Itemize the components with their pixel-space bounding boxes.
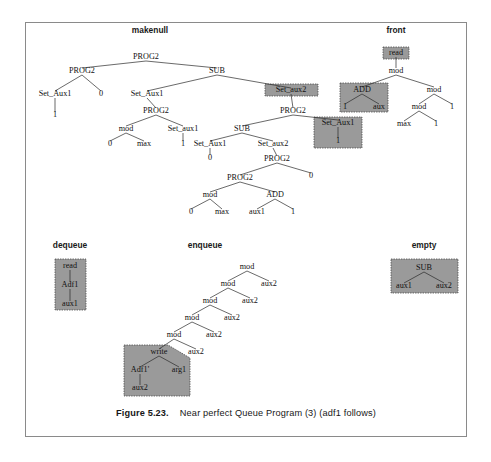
tree-node-eq-aux2: aux2 — [132, 383, 148, 392]
tree-node-mn-l-1: Set_Aux1 — [39, 89, 72, 98]
tree-node-eq-mod5-aux2: aux2 — [188, 347, 204, 356]
tree-node-eq-mod1-aux2: aux2 — [261, 279, 277, 288]
tree-node-fr-add-1: 1 — [343, 102, 347, 111]
tree-node-mn-mod2: mod — [203, 190, 218, 199]
tree-node-fr-add-aux: aux — [373, 102, 385, 111]
tree-node-mn-mod1-0: 0 — [108, 139, 112, 148]
tree-node-mn-l-2: 0 — [99, 89, 103, 98]
tree-node-mn-sub2: SUB — [234, 124, 250, 133]
tree-node-mn-l: PROG2 — [69, 66, 95, 75]
tree-node-eq-arg1: arg1 — [172, 365, 186, 374]
tree-node-mn-add1-aux1: aux1 — [249, 207, 265, 216]
tree-edge — [277, 163, 311, 173]
tree-title-enqueue: enqueue — [188, 240, 223, 250]
tree-node-dq-read: read — [63, 261, 77, 270]
tree-edge — [146, 61, 217, 68]
tree-node-mn-p2c-0: 0 — [309, 171, 313, 180]
tree-node-fr-mod3-1: 1 — [434, 119, 438, 128]
tree-node-mn-r-1: Set_Aux1 — [131, 89, 164, 98]
tree-node-mn-sa1c-1: 1 — [336, 136, 340, 145]
tree-node-mn-sa1c: Set_Aux1 — [322, 118, 355, 127]
tree-node-mn-mod2-0: 0 — [189, 207, 193, 216]
tree-node-layer: PROG2PROG2Set_Aux110SUBSet_Aux1PROG2mod0… — [39, 48, 454, 392]
program-tree-diagram: PROG2PROG2Set_Aux110SUBSet_Aux1PROG2mod0… — [0, 0, 491, 462]
tree-node-fr-mod: mod — [389, 66, 404, 75]
tree-node-fr-mod3: mod — [412, 102, 427, 111]
tree-node-mn-sub2-r: Set_aux2 — [258, 139, 288, 148]
tree-node-mn-sax2: Set_aux2 — [276, 85, 306, 94]
tree-node-mn-add1: ADD — [266, 190, 284, 199]
tree-node-em-aux1: aux1 — [396, 281, 412, 290]
tree-node-mn-mod1-max: max — [137, 139, 151, 148]
tree-node-mn-add1-1: 1 — [291, 207, 295, 216]
tree-node-eq-write: write — [151, 347, 168, 356]
figure-caption: Figure 5.23.Near perfect Queue Program (… — [25, 408, 467, 418]
tree-node-dq-adf1: Adf1 — [62, 280, 79, 289]
tree-node-mn-p2b: PROG2 — [280, 106, 306, 115]
tree-node-mn-r-1-1: PROG2 — [143, 106, 169, 115]
tree-node-eq-mod3: mod — [203, 296, 218, 305]
tree-node-mn-sub2-l-0: 0 — [208, 153, 212, 162]
tree-node-fr-add: ADD — [353, 85, 371, 94]
shaded-subtree-layer — [55, 47, 458, 396]
tree-node-mn-p2d: PROG2 — [227, 173, 253, 182]
tree-node-fr-mod2: mod — [427, 85, 442, 94]
figure-number: Figure 5.23. — [116, 408, 169, 418]
tree-edge-layer — [55, 57, 452, 385]
tree-title-dequeue: dequeue — [53, 240, 88, 250]
tree-node-mn-mod2-max: max — [215, 207, 229, 216]
tree-node-fr-read: read — [389, 48, 403, 57]
figure-caption-text: Near perfect Queue Program (3) (adf1 fol… — [180, 408, 376, 418]
tree-node-mn-mod1: mod — [119, 124, 134, 133]
tree-title-layer: makenullfrontdequeueenqueueempty — [53, 25, 437, 250]
tree-node-fr-mod2-1: 1 — [450, 102, 454, 111]
tree-node-eq-mod4: mod — [185, 313, 200, 322]
tree-title-makenull: makenull — [132, 25, 168, 35]
tree-title-empty: empty — [412, 240, 437, 250]
tree-node-eq-mod4-aux2: aux2 — [206, 330, 222, 339]
tree-title-front: front — [386, 25, 405, 35]
tree-node-mn-r: SUB — [209, 66, 225, 75]
tree-node-mn-l-1-1: 1 — [53, 110, 57, 119]
tree-node-eq-mod1: mod — [240, 262, 255, 271]
tree-node-eq-adf1: Adf1' — [131, 365, 150, 374]
tree-node-mn-root: PROG2 — [133, 52, 159, 61]
tree-node-eq-mod2-aux2: aux2 — [242, 296, 258, 305]
tree-node-em-sub: SUB — [416, 263, 432, 272]
tree-node-mn-p2c: PROG2 — [264, 154, 290, 163]
tree-node-eq-mod3-aux2: aux2 — [224, 313, 240, 322]
tree-node-eq-mod2: mod — [221, 279, 236, 288]
tree-node-fr-mod3-max: max — [397, 119, 411, 128]
tree-node-dq-aux1: aux1 — [62, 299, 78, 308]
tree-node-mn-sa1b: Set_aux1 — [168, 124, 198, 133]
tree-node-eq-mod5: mod — [167, 330, 182, 339]
tree-node-mn-sa1b-1: 1 — [181, 139, 185, 148]
tree-edge — [191, 199, 210, 209]
tree-edge — [110, 133, 126, 141]
tree-node-em-aux2: aux2 — [436, 281, 452, 290]
tree-node-mn-sub2-l: Set_Aux1 — [194, 139, 227, 148]
